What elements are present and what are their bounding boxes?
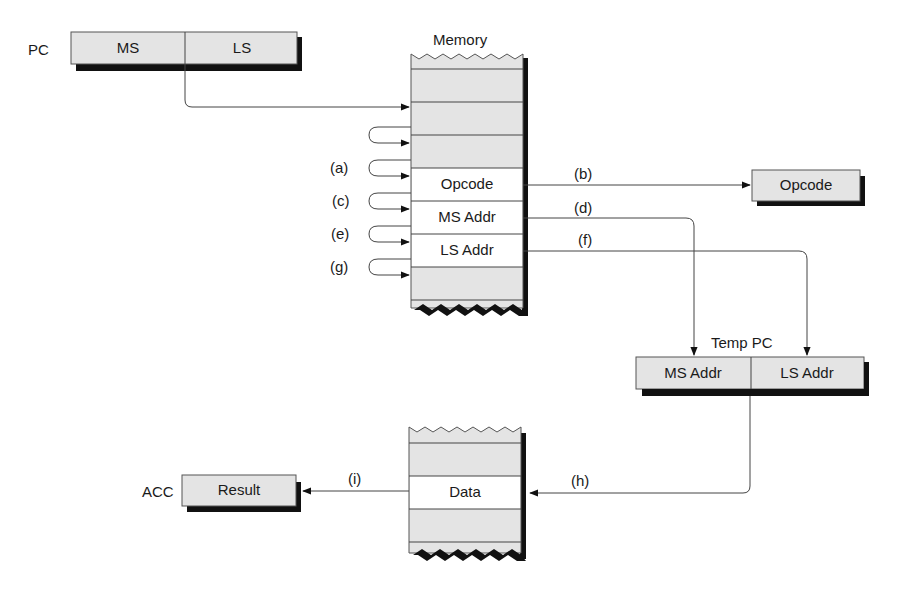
arrow-label-i: (i) [348, 470, 361, 487]
memory-row-opcode: Opcode [441, 175, 494, 192]
temp-pc-to-data-arrow [530, 396, 750, 493]
diagram-canvas: PC MS LS Memory Opcode MS Addr LS Addr ( [0, 0, 903, 594]
opcode-register-label: Opcode [780, 176, 833, 193]
arrow-label-b: (b) [574, 165, 592, 182]
data-memory-block: Data [409, 427, 526, 561]
pc-ls-field: LS [233, 39, 251, 56]
pc-label: PC [28, 41, 49, 58]
acc-register: ACC Result [142, 475, 301, 512]
arrow-label-h: (h) [571, 472, 589, 489]
loop-label-g: (g) [330, 258, 348, 275]
arrow-label-f: (f) [578, 231, 592, 248]
ms-addr-arrow [523, 218, 694, 355]
memory-title: Memory [433, 31, 488, 48]
opcode-register: Opcode [752, 170, 865, 206]
acc-label: ACC [142, 483, 174, 500]
loop-label-e: (e) [331, 225, 349, 242]
loop-label-c: (c) [332, 192, 350, 209]
loop-label-a: (a) [330, 159, 348, 176]
pc-register: PC MS LS [28, 32, 302, 71]
arrow-label-d: (d) [574, 199, 592, 216]
acc-result-field: Result [218, 481, 261, 498]
temp-pc-ls-field: LS Addr [780, 364, 833, 381]
temp-pc-register: Temp PC MS Addr LS Addr [636, 334, 869, 396]
temp-pc-ms-field: MS Addr [664, 364, 722, 381]
memory-block: Memory Opcode MS Addr LS Addr [411, 31, 528, 316]
temp-pc-label: Temp PC [711, 334, 773, 351]
memory-row-ms-addr: MS Addr [438, 208, 496, 225]
data-memory-row-data: Data [449, 483, 481, 500]
pc-ms-field: MS [117, 39, 140, 56]
memory-row-ls-addr: LS Addr [440, 241, 493, 258]
pc-increment-loops: (a) (c) (e) (g) [330, 127, 411, 275]
